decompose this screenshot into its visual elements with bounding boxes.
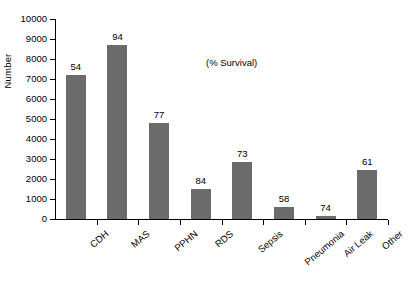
y-tick (50, 59, 55, 60)
bar-value-label: 77 (139, 110, 179, 120)
survival-annotation: (% Survival) (206, 57, 257, 68)
y-tick (50, 139, 55, 140)
bar-value-label: 54 (56, 62, 96, 72)
bar-value-label: 73 (222, 149, 262, 159)
y-tick-label: 6000 (1, 94, 47, 104)
y-tick (50, 19, 55, 20)
x-category-label: Sepsis (256, 228, 285, 255)
x-tick (97, 220, 98, 225)
y-tick-label: 9000 (1, 34, 47, 44)
x-category-label: RDS (212, 228, 234, 249)
bar-value-label: 58 (264, 194, 304, 204)
bar-value-label: 94 (97, 32, 137, 42)
x-category-label: MAS (129, 228, 152, 250)
x-category-label: PPHN (172, 228, 199, 253)
x-tick (180, 220, 181, 225)
y-tick (50, 179, 55, 180)
x-tick (305, 220, 306, 225)
bar (66, 75, 86, 219)
x-category-label: Air Leak (341, 228, 375, 259)
y-tick (50, 119, 55, 120)
y-tick-label: 2000 (1, 174, 47, 184)
bar (149, 123, 169, 219)
bar (107, 45, 127, 219)
bar (191, 189, 211, 219)
y-tick (50, 159, 55, 160)
x-category-label: Other (380, 228, 405, 252)
plot-area: 0100020003000400050006000700080009000100… (55, 19, 388, 220)
y-tick-label: 3000 (1, 154, 47, 164)
y-tick-label: 4000 (1, 134, 47, 144)
x-tick (346, 220, 347, 225)
bar-chart: Number 010002000300040005000600070008000… (0, 0, 411, 298)
y-tick-label: 7000 (1, 74, 47, 84)
y-tick-label: 8000 (1, 54, 47, 64)
bar (232, 162, 252, 219)
bar-value-label: 74 (306, 203, 346, 213)
x-tick (222, 220, 223, 225)
x-tick (263, 220, 264, 225)
x-tick (138, 220, 139, 225)
x-category-label: CDH (88, 228, 111, 250)
y-tick-label: 0 (1, 214, 47, 224)
y-tick-label: 10000 (1, 14, 47, 24)
y-tick (50, 199, 55, 200)
bar-value-label: 61 (347, 157, 387, 167)
y-tick-label: 1000 (1, 194, 47, 204)
y-tick (50, 99, 55, 100)
bar (357, 170, 377, 219)
y-axis-line (55, 19, 56, 220)
bar (274, 207, 294, 219)
x-category-label: Pneumonia (302, 228, 346, 267)
y-tick (50, 219, 55, 220)
bar (316, 216, 336, 219)
bar-value-label: 84 (181, 176, 221, 186)
y-tick-label: 5000 (1, 114, 47, 124)
y-tick (50, 39, 55, 40)
y-tick (50, 79, 55, 80)
x-tick (388, 220, 389, 225)
